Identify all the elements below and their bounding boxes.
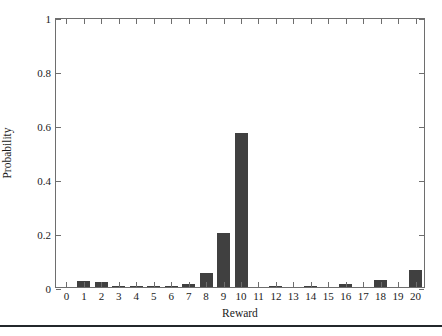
y-tick-mark [419, 235, 424, 236]
x-tick-mark [224, 19, 225, 24]
y-tick-mark [56, 73, 61, 74]
x-tick-mark [136, 282, 137, 287]
y-tick-label: 0.6 [37, 122, 51, 133]
x-tick-label: 12 [270, 291, 281, 302]
x-tick-label: 8 [203, 291, 209, 302]
y-tick-mark [56, 181, 61, 182]
x-tick-label: 4 [134, 291, 140, 302]
x-tick-mark [398, 282, 399, 287]
y-tick-label: 0 [46, 284, 52, 295]
y-tick-mark [419, 127, 424, 128]
x-tick-label: 14 [305, 291, 316, 302]
x-tick-mark [293, 282, 294, 287]
y-tick-mark [419, 181, 424, 182]
x-tick-mark [154, 282, 155, 287]
x-tick-mark [101, 19, 102, 24]
x-tick-label: 15 [323, 291, 334, 302]
x-tick-mark [381, 282, 382, 287]
bar [235, 133, 248, 287]
x-axis-title: Reward [55, 308, 425, 320]
x-tick-mark [346, 282, 347, 287]
x-tick-mark [154, 19, 155, 24]
bar [217, 233, 230, 287]
x-tick-label: 11 [253, 291, 264, 302]
x-tick-mark [311, 282, 312, 287]
y-tick-label: 0.4 [37, 176, 51, 187]
y-axis-title: Probability [2, 127, 14, 178]
plot-area: 00.20.40.60.81 0123456789101112131415161… [55, 18, 425, 288]
x-tick-label: 5 [151, 291, 157, 302]
x-tick-mark [119, 19, 120, 24]
x-tick-mark [171, 19, 172, 24]
x-tick-mark [66, 19, 67, 24]
x-tick-mark [206, 282, 207, 287]
x-tick-mark [171, 282, 172, 287]
y-tick-mark [56, 127, 61, 128]
y-tick-label: 0.2 [37, 230, 51, 241]
x-tick-label: 7 [186, 291, 192, 302]
x-tick-label: 9 [221, 291, 227, 302]
x-tick-mark [258, 19, 259, 24]
x-tick-mark [84, 282, 85, 287]
y-tick-label: 0.8 [37, 68, 51, 79]
x-tick-mark [276, 19, 277, 24]
x-tick-mark [293, 19, 294, 24]
x-tick-mark [206, 19, 207, 24]
x-tick-mark [416, 19, 417, 24]
x-tick-label: 17 [358, 291, 369, 302]
y-tick-mark [419, 73, 424, 74]
x-tick-mark [189, 282, 190, 287]
y-tick-mark [56, 235, 61, 236]
x-tick-mark [381, 19, 382, 24]
x-tick-mark [119, 282, 120, 287]
x-tick-label: 1 [81, 291, 87, 302]
x-tick-mark [258, 282, 259, 287]
y-tick-mark [419, 19, 424, 20]
x-tick-mark [136, 19, 137, 24]
x-tick-mark [241, 19, 242, 24]
x-tick-label: 0 [64, 291, 70, 302]
x-tick-label: 13 [288, 291, 299, 302]
x-tick-label: 16 [340, 291, 351, 302]
x-tick-label: 10 [236, 291, 247, 302]
x-tick-mark [416, 282, 417, 287]
x-tick-mark [66, 282, 67, 287]
x-tick-label: 20 [410, 291, 421, 302]
x-tick-mark [363, 282, 364, 287]
x-tick-mark [276, 282, 277, 287]
x-tick-mark [84, 19, 85, 24]
x-tick-mark [224, 282, 225, 287]
x-tick-label: 2 [99, 291, 105, 302]
bottom-divider [0, 325, 442, 327]
chart-figure: Probability 00.20.40.60.81 0123456789101… [0, 0, 442, 336]
x-tick-mark [363, 19, 364, 24]
x-tick-mark [328, 19, 329, 24]
x-tick-label: 18 [375, 291, 386, 302]
y-tick-mark [56, 289, 61, 290]
x-tick-mark [101, 282, 102, 287]
x-tick-mark [189, 19, 190, 24]
x-tick-label: 19 [393, 291, 404, 302]
x-tick-label: 6 [168, 291, 174, 302]
x-tick-mark [346, 19, 347, 24]
x-tick-mark [398, 19, 399, 24]
y-tick-label: 1 [46, 14, 52, 25]
x-tick-label: 3 [116, 291, 122, 302]
bars-layer [56, 19, 424, 287]
x-tick-mark [311, 19, 312, 24]
y-tick-mark [56, 19, 61, 20]
x-tick-mark [241, 282, 242, 287]
x-tick-mark [328, 282, 329, 287]
